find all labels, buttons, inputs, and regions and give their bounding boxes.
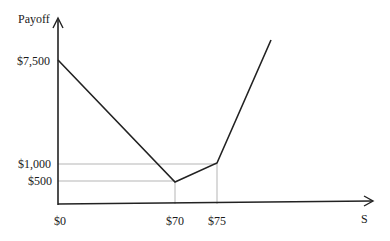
- payoff-line: [58, 40, 271, 182]
- y-tick-500: $500: [28, 174, 52, 188]
- x-tick-75: $75: [208, 214, 226, 228]
- x-tick-70: $70: [166, 214, 184, 228]
- payoff-chart: Payoff $7,500 $1,000 $500 $0 $70 $75 S: [0, 0, 390, 241]
- y-axis-label: Payoff: [18, 12, 50, 26]
- x-axis-label: S: [361, 212, 368, 226]
- x-tick-0: $0: [54, 214, 66, 228]
- x-axis: [58, 201, 372, 204]
- y-tick-1000: $1,000: [18, 157, 51, 171]
- y-tick-7500: $7,500: [17, 54, 50, 68]
